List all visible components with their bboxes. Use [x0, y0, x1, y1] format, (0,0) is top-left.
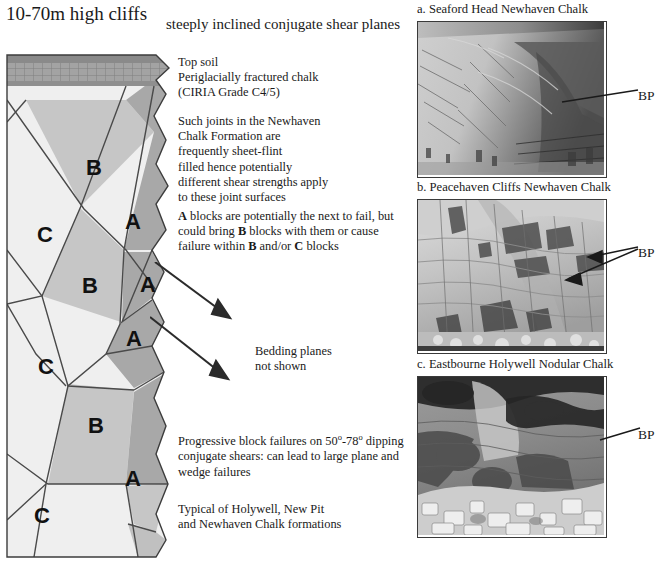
photo-c-bp-label: BP	[638, 427, 655, 442]
photo-eastbourne-holywell	[417, 376, 607, 538]
photo-c-bp-leader	[598, 420, 642, 448]
cliff-block-diagram: B A C B A A C B A C C	[6, 54, 170, 558]
note-topsoil: Top soil Periglacially fractured chalk (…	[178, 55, 408, 101]
note-typical-line-1: Typical of Holywell, New Pit	[178, 502, 418, 517]
block-label-c-2: C	[38, 354, 54, 379]
block-label-a-4: A	[125, 466, 141, 491]
note-a-blocks: A blocks are potentially the next to fai…	[178, 209, 403, 255]
note-topsoil-line-2: Periglacially fractured chalk	[178, 70, 408, 85]
note-joints-line-1: Such joints in the Newhaven	[178, 114, 408, 129]
note-joints-line-2: Chalk Formation are	[178, 129, 408, 144]
block-label-c-1: C	[37, 222, 53, 247]
note-joints: Such joints in the Newhaven Chalk Format…	[178, 114, 408, 205]
periglacial-base-line	[6, 81, 170, 86]
block-label-a-1: A	[125, 209, 141, 234]
block-label-b-2: B	[82, 273, 98, 298]
block-label-a-3: A	[126, 326, 142, 351]
photo-b-bp-label: BP	[638, 245, 655, 260]
block-label-b-3: B	[88, 413, 104, 438]
periglacial-chalk-layer	[6, 63, 170, 81]
photo-caption-b: b. Peacehaven Cliffs Newhaven Chalk	[417, 180, 611, 195]
note-topsoil-line-3: (CIRIA Grade C4/5)	[178, 85, 408, 100]
note-progressive-failures: Progressive block failures on 50o-78o di…	[178, 430, 408, 480]
note-typical-formations: Typical of Holywell, New Pit and Newhave…	[178, 502, 418, 532]
note-typical-line-2: and Newhaven Chalk formations	[178, 517, 418, 532]
note-joints-line-5: different shear strengths apply	[178, 175, 408, 190]
photo-a-bp-label: BP	[638, 88, 655, 103]
block-label-c-4: C	[76, 554, 92, 558]
shear-planes-heading: steeply inclined conjugate shear planes	[166, 15, 436, 34]
photo-caption-a: a. Seaford Head Newhaven Chalk	[417, 2, 588, 17]
photo-b-bp-leaders	[560, 235, 640, 291]
note-joints-line-3: frequently sheet-flint	[178, 144, 408, 159]
bedding-plane-arrows	[150, 262, 280, 392]
photo-caption-c: c. Eastbourne Holywell Nodular Chalk	[417, 357, 613, 372]
note-topsoil-line-1: Top soil	[178, 55, 408, 70]
note-joints-line-6: to these joint surfaces	[178, 190, 408, 205]
bedding-arrow-head-2	[210, 361, 228, 379]
bedding-arrow-head-1	[212, 300, 230, 318]
block-label-b-1: B	[86, 155, 102, 180]
cliff-height-label: 10-70m high cliffs	[6, 2, 156, 25]
block-label-c-3: C	[34, 503, 50, 528]
photo-a-bp-leader	[560, 78, 640, 114]
note-joints-line-4: filled hence potentially	[178, 160, 408, 175]
